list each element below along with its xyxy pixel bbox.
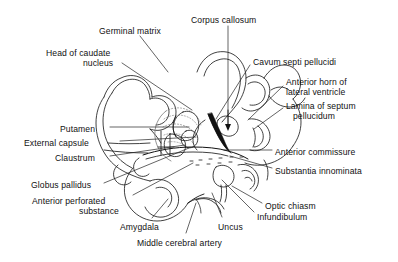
leader-cavum-septi bbox=[216, 65, 250, 119]
leader-amygdala bbox=[152, 199, 168, 218]
label-anterior-perforated-substance: Anterior perforated bbox=[32, 196, 105, 206]
label-globus-pallidus: Globus pallidus bbox=[31, 180, 91, 190]
caudate-head-inner bbox=[150, 98, 169, 125]
basal-line-2 bbox=[108, 143, 150, 144]
label-external-capsule: External capsule bbox=[24, 138, 89, 148]
label-putamen: Putamen bbox=[60, 124, 95, 134]
right-basal-sulcus bbox=[264, 160, 268, 180]
leader-substantia-innominata bbox=[230, 156, 272, 168]
basal-vessel-loop-1 bbox=[134, 158, 149, 176]
leader-germinal-matrix bbox=[140, 36, 168, 72]
label-lamina-of-septum-line2: pellucidum bbox=[293, 111, 335, 121]
label-anterior-perforated-substance-line2: substance bbox=[79, 206, 119, 216]
leader-head-of-caudate bbox=[122, 63, 192, 110]
corpus-callosum-inner bbox=[204, 59, 240, 108]
leader-uncus bbox=[212, 193, 222, 217]
corpus-callosum-arrowhead bbox=[225, 124, 231, 131]
amygdala-outline bbox=[145, 179, 179, 217]
mca-branch bbox=[196, 199, 201, 213]
left-superior-gyrus-inner bbox=[112, 79, 150, 99]
putamen-outline bbox=[173, 111, 199, 140]
label-lamina-of-septum: Lamina of septum bbox=[286, 101, 356, 111]
label-claustrum: Claustrum bbox=[55, 153, 95, 163]
infundibulum-stalk bbox=[225, 185, 227, 202]
anterior-horn-lateral-ventricle-right bbox=[249, 119, 270, 151]
label-cavum-septi-pellucidi: Cavum septi pellucidi bbox=[253, 57, 336, 67]
substantia-innominata-stipple bbox=[190, 157, 243, 165]
label-head-of-caudate-nucleus-line2: nucleus bbox=[83, 58, 113, 68]
left-cortex-inner bbox=[103, 93, 132, 168]
cingulate-gyrus-right-inner bbox=[248, 82, 265, 105]
leader-lamina-septum bbox=[254, 108, 283, 129]
label-amygdala: Amygdala bbox=[120, 222, 159, 232]
corpus-callosum-body bbox=[197, 52, 246, 122]
label-substantia-innominata: Substantia innominata bbox=[275, 166, 362, 176]
leader-middle-cerebral-artery bbox=[186, 203, 196, 233]
anterior-commissure-lower bbox=[146, 152, 228, 159]
hypothalamus-right-inner bbox=[242, 170, 255, 189]
label-middle-cerebral-artery: Middle cerebral artery bbox=[137, 238, 222, 248]
label-uncus: Uncus bbox=[218, 222, 243, 232]
label-anterior-horn-line2: lateral ventricle bbox=[286, 87, 345, 97]
label-head-of-caudate-nucleus: Head of caudate bbox=[46, 48, 110, 58]
optic-chiasm-outline bbox=[213, 165, 234, 187]
label-germinal-matrix: Germinal matrix bbox=[99, 26, 161, 36]
hypothalamus-right bbox=[238, 164, 258, 191]
caudate-head-outline bbox=[150, 96, 176, 131]
label-anterior-commissure: Anterior commissure bbox=[275, 147, 355, 157]
label-infundibulum: Infundibulum bbox=[257, 212, 307, 222]
label-corpus-callosum: Corpus callosum bbox=[191, 15, 256, 25]
germinal-matrix-border bbox=[155, 111, 171, 161]
label-anterior-horn: Anterior horn of bbox=[286, 77, 347, 87]
lamina-septum-pellucidum bbox=[253, 128, 255, 147]
leader-anterior-horn bbox=[248, 86, 283, 120]
infundibulum-outline bbox=[220, 185, 222, 202]
anatomical-figure: Germinal matrix Corpus callosum Head of … bbox=[0, 0, 398, 262]
label-optic-chiasm: Optic chiasm bbox=[265, 201, 316, 211]
mammillary-detail bbox=[245, 177, 252, 181]
